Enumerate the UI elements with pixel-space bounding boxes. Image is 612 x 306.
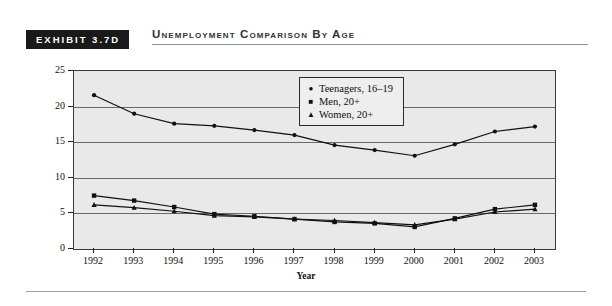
x-tick-label: 1995 (193, 255, 233, 266)
x-tick-label: 1996 (233, 255, 273, 266)
data-point-circle (292, 133, 296, 137)
y-tick-mark (68, 106, 73, 107)
data-point-circle (373, 148, 377, 152)
y-tick-mark (68, 70, 73, 71)
data-point-circle (413, 154, 417, 158)
x-tick-mark (213, 248, 214, 253)
data-point-circle (533, 124, 537, 128)
data-point-circle (92, 93, 96, 97)
x-tick-label: 1998 (314, 255, 354, 266)
legend-label-teenagers: Teenagers, 16–19 (319, 83, 393, 94)
y-tick-mark (68, 248, 73, 249)
x-tick-mark (414, 248, 415, 253)
x-tick-label: 2002 (474, 255, 514, 266)
data-point-circle (132, 112, 136, 116)
y-tick-label: 0 (41, 242, 65, 253)
legend-item-women: ▲ Women, 20+ (306, 108, 393, 121)
exhibit-header: EXHIBIT 3.7D Unemployment Comparison by … (0, 14, 612, 46)
footer-divider (26, 291, 586, 292)
exhibit-number-badge: EXHIBIT 3.7D (26, 30, 129, 49)
legend-item-teenagers: ● Teenagers, 16–19 (306, 82, 393, 95)
data-point-square (92, 193, 96, 197)
x-tick-label: 2003 (514, 255, 554, 266)
x-tick-label: 2001 (434, 255, 474, 266)
x-tick-mark (454, 248, 455, 253)
y-tick-label: 5 (41, 206, 65, 217)
legend-label-women: Women, 20+ (319, 109, 373, 120)
data-point-circle (212, 124, 216, 128)
x-tick-mark (534, 248, 535, 253)
x-tick-label: 1997 (273, 255, 313, 266)
square-marker-icon: ■ (306, 98, 316, 106)
x-tick-mark (293, 248, 294, 253)
data-point-circle (172, 122, 176, 126)
data-point-circle (252, 128, 256, 132)
y-tick-label: 15 (41, 135, 65, 146)
data-point-circle (332, 143, 336, 147)
x-tick-mark (133, 248, 134, 253)
x-tick-mark (253, 248, 254, 253)
x-tick-label: 1994 (153, 255, 193, 266)
x-tick-label: 2000 (394, 255, 434, 266)
x-tick-mark (93, 248, 94, 253)
data-point-circle (453, 142, 457, 146)
x-tick-mark (173, 248, 174, 253)
plot-area: ● Teenagers, 16–19 ■ Men, 20+ ▲ Women, 2… (73, 70, 556, 250)
legend-item-men: ■ Men, 20+ (306, 95, 393, 108)
x-tick-label: 1993 (113, 255, 153, 266)
y-tick-label: 25 (41, 64, 65, 75)
y-tick-mark (68, 212, 73, 213)
chart-legend: ● Teenagers, 16–19 ■ Men, 20+ ▲ Women, 2… (299, 77, 404, 126)
y-tick-mark (68, 141, 73, 142)
circle-marker-icon: ● (306, 85, 316, 93)
legend-label-men: Men, 20+ (319, 96, 360, 107)
x-tick-mark (494, 248, 495, 253)
y-tick-label: 20 (41, 100, 65, 111)
x-axis-label: Year (0, 271, 612, 281)
chart-container: ● Teenagers, 16–19 ■ Men, 20+ ▲ Women, 2… (0, 56, 612, 266)
x-tick-mark (374, 248, 375, 253)
data-point-square (132, 198, 136, 202)
exhibit-page: EXHIBIT 3.7D Unemployment Comparison by … (0, 0, 612, 306)
x-tick-mark (334, 248, 335, 253)
title-divider (152, 44, 588, 45)
x-tick-label: 1992 (73, 255, 113, 266)
title-block: Unemployment Comparison by Age (152, 28, 588, 45)
y-tick-label: 10 (41, 171, 65, 182)
series-line-square (94, 196, 535, 227)
x-tick-label: 1999 (354, 255, 394, 266)
page-title: Unemployment Comparison by Age (152, 28, 588, 44)
data-point-circle (493, 129, 497, 133)
y-tick-mark (68, 177, 73, 178)
triangle-marker-icon: ▲ (306, 111, 316, 119)
